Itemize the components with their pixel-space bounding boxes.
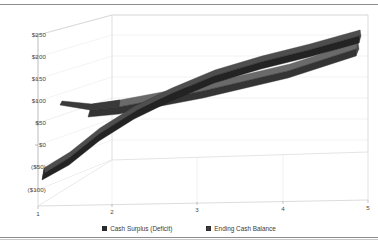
x-tick-label: 1 — [31, 210, 45, 217]
legend-swatch-icon — [206, 226, 211, 231]
legend-swatch-icon — [102, 226, 107, 231]
chart-container: $250 $200 $150 $100 $50 $0 ($50) ($100) … — [0, 0, 378, 245]
legend-label: Cash Surplus (Deficit) — [110, 225, 172, 232]
x-tick-label: 3 — [190, 206, 204, 213]
x-tick-label: 5 — [361, 204, 375, 211]
legend-item-ending-cash-balance[interactable]: Ending Cash Balance — [206, 225, 275, 232]
chart-legend: Cash Surplus (Deficit) Ending Cash Balan… — [0, 222, 378, 234]
legend-item-cash-surplus-deficit[interactable]: Cash Surplus (Deficit) — [102, 225, 172, 232]
frame-bottom-border — [0, 237, 378, 238]
x-tick-label: 4 — [276, 205, 290, 212]
legend-label: Ending Cash Balance — [214, 225, 275, 232]
x-tick-label: 2 — [105, 208, 119, 215]
frame-bottom-border-shadow — [0, 239, 378, 240]
x-axis-labels: 1 2 3 4 5 — [0, 0, 378, 245]
